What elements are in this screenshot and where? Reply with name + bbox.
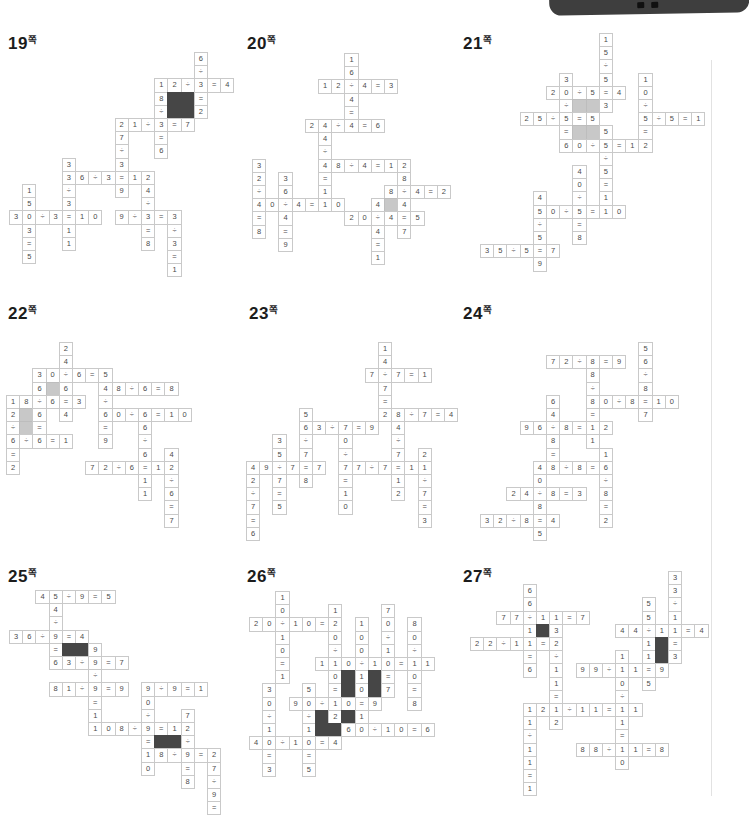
answer-cell: ÷: [559, 461, 573, 475]
answer-cell: 1: [338, 487, 352, 501]
answer-cell: 2: [549, 716, 563, 730]
answer-cell: 2: [391, 487, 405, 501]
answer-cell: ÷: [371, 211, 385, 225]
answer-cell: 2: [252, 172, 266, 186]
answer-cell: 3: [62, 197, 76, 211]
answer-cell: 3: [9, 210, 23, 224]
answer-cell: =: [358, 119, 372, 133]
answer-cell: 3: [22, 224, 36, 238]
answer-cell: 2: [59, 342, 73, 356]
puzzle-21-label: 21쪽: [463, 27, 492, 55]
answer-cell: 8: [19, 395, 33, 409]
answer-cell: 1: [315, 657, 329, 671]
answer-cell: ÷: [668, 597, 682, 611]
answer-cell: 6: [72, 368, 86, 382]
answer-cell: 0: [572, 139, 586, 153]
answer-cell: =: [164, 500, 178, 514]
answer-cell: 6: [546, 395, 560, 409]
answer-cell: =: [62, 630, 76, 644]
answer-cell: 3: [72, 395, 86, 409]
answer-cell: =: [154, 722, 168, 736]
answer-cell: ÷: [128, 210, 142, 224]
answer-cell: 2: [167, 78, 181, 92]
answer-cell: =: [154, 131, 168, 145]
answer-cell: ÷: [138, 434, 152, 448]
answer-cell: 1: [615, 650, 629, 664]
answer-cell: 8: [181, 775, 195, 789]
answer-cell: 7: [365, 368, 379, 382]
answer-cell: 4: [378, 355, 392, 369]
answer-cell: 2: [328, 710, 342, 724]
answer-cell: 0: [101, 722, 115, 736]
answer-cell: =: [101, 656, 115, 670]
answer-cell: =: [371, 238, 385, 252]
answer-cell: =: [533, 514, 547, 528]
answer-cell: ÷: [355, 657, 369, 671]
answer-cell: 1: [275, 591, 289, 605]
answer-cell: ÷: [62, 590, 76, 604]
answer-cell: 3: [312, 421, 326, 435]
answer-cell: 1: [302, 723, 316, 737]
answer-cell: 2: [599, 421, 613, 435]
answer-cell: 7: [207, 762, 221, 776]
answer-cell: 4: [98, 382, 112, 396]
answer-cell: 1: [418, 368, 432, 382]
answer-cell: =: [431, 408, 445, 422]
answer-cell: 1: [344, 53, 358, 67]
blocked-cell: [368, 670, 382, 684]
answer-cell: ÷: [141, 197, 155, 211]
answer-cell: 3: [549, 624, 563, 638]
answer-cell: 6: [138, 408, 152, 422]
page-suffix: 쪽: [483, 567, 492, 578]
answer-cell: 4: [75, 630, 89, 644]
answer-cell: 1: [167, 722, 181, 736]
answer-cell: 0: [572, 178, 586, 192]
badge-glyph-fragment: [637, 2, 644, 8]
answer-cell: 8: [546, 434, 560, 448]
answer-cell: 5: [642, 597, 656, 611]
answer-cell: 1: [59, 434, 73, 448]
answer-cell: 6: [533, 421, 547, 435]
answer-cell: =: [246, 514, 260, 528]
answer-cell: 4: [572, 165, 586, 179]
answer-cell: 7: [391, 368, 405, 382]
answer-cell: 4: [533, 461, 547, 475]
answer-cell: 4: [49, 603, 63, 617]
answer-cell: ÷: [559, 99, 573, 113]
answer-cell: 6: [164, 487, 178, 501]
answer-cell: 3: [101, 171, 115, 185]
answer-cell: 0: [355, 723, 369, 737]
answer-cell: 1: [262, 723, 276, 737]
answer-cell: 0: [46, 368, 60, 382]
answer-cell: ÷: [368, 723, 382, 737]
answer-cell: 7: [115, 656, 129, 670]
answer-cell: 1: [318, 185, 332, 199]
answer-cell: 3: [154, 118, 168, 132]
answer-cell: 4: [444, 408, 458, 422]
answer-cell: ÷: [154, 105, 168, 119]
answer-cell: 1: [523, 782, 537, 796]
answer-cell: =: [546, 448, 560, 462]
answer-cell: 1: [289, 617, 303, 631]
answer-cell: =: [381, 670, 395, 684]
answer-cell: 1: [407, 657, 421, 671]
answer-cell: 0: [338, 434, 352, 448]
answer-cell: 6: [138, 421, 152, 435]
answer-cell: 5: [665, 112, 679, 126]
answer-cell: 0: [407, 670, 421, 684]
answer-cell: ÷: [615, 690, 629, 704]
answer-cell: 1: [318, 198, 332, 212]
answer-cell: ÷: [315, 697, 329, 711]
answer-cell: 1: [141, 748, 155, 762]
answer-cell: 1: [167, 263, 181, 277]
answer-cell: =: [315, 736, 329, 750]
answer-cell: ÷: [533, 487, 547, 501]
answer-cell: 0: [638, 86, 652, 100]
answer-cell: 1: [384, 159, 398, 173]
answer-cell: 9: [115, 184, 129, 198]
answer-cell: =: [6, 448, 20, 462]
answer-cell: =: [424, 185, 438, 199]
answer-cell: =: [181, 682, 195, 696]
answer-cell: ÷: [612, 395, 626, 409]
answer-cell: =: [536, 637, 550, 651]
